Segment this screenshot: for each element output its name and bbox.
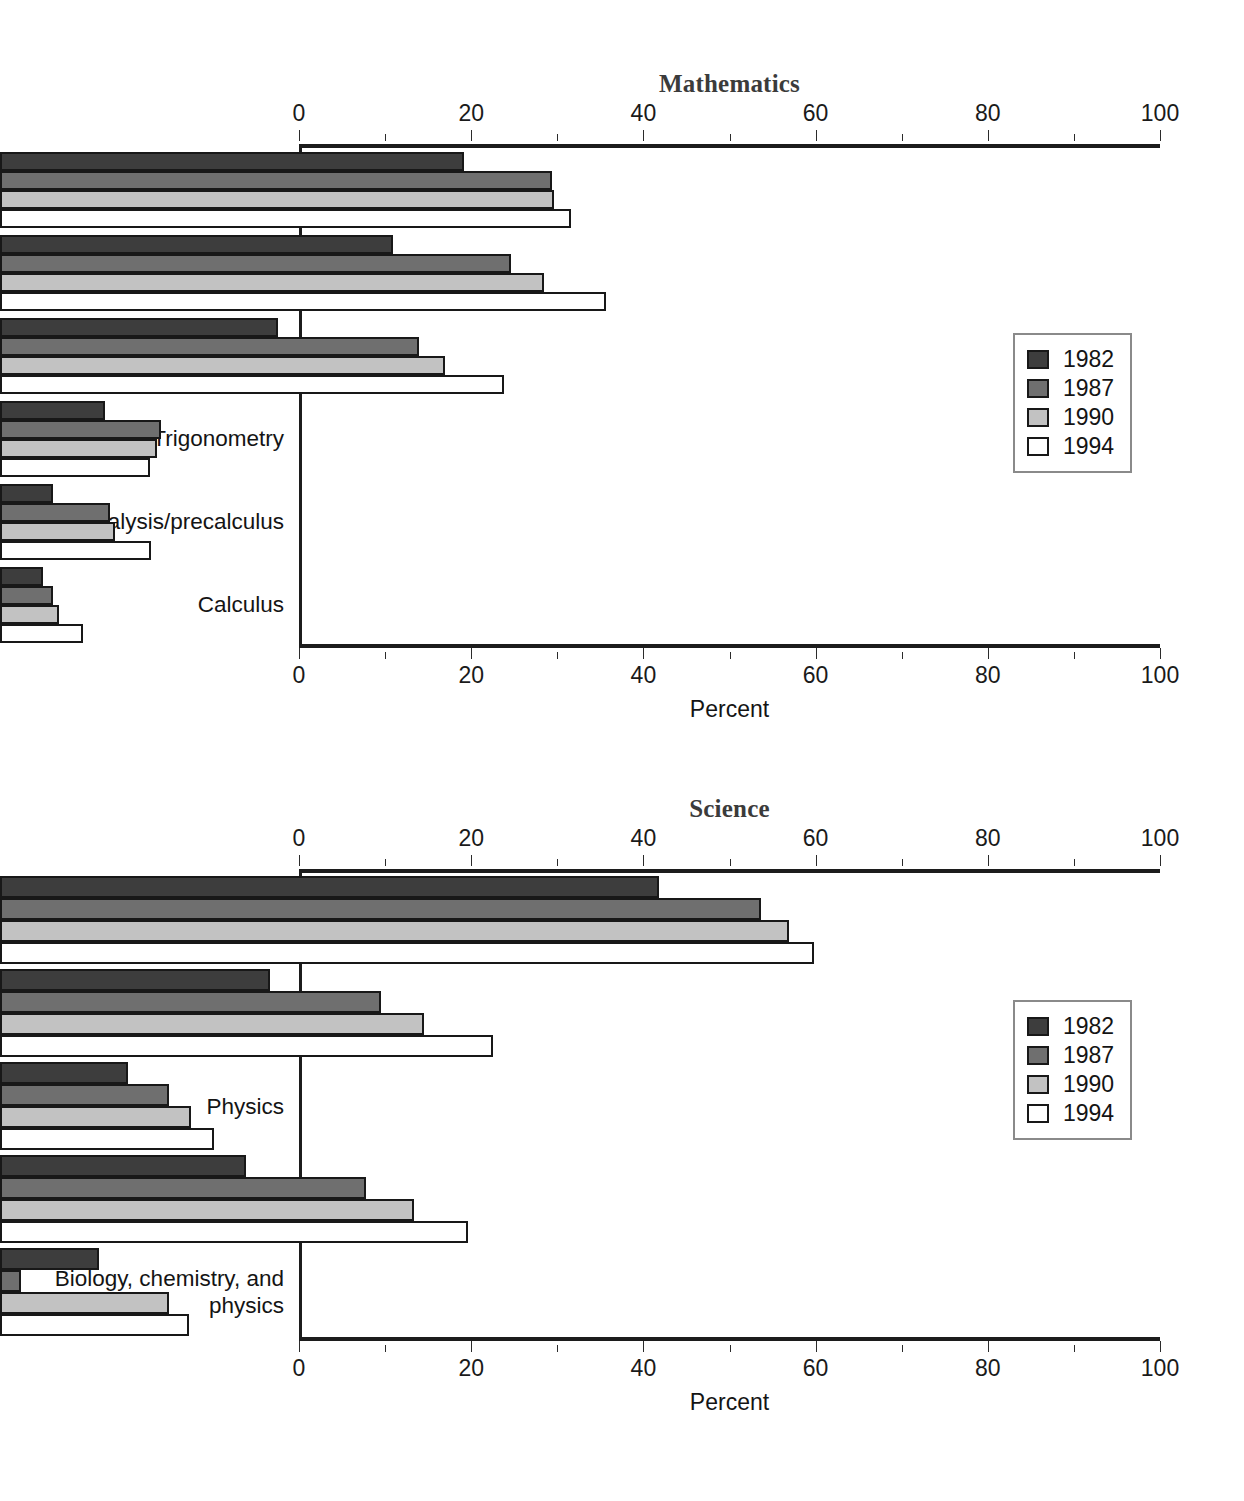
bottom-axis-tick-labels: 020406080100 [299, 1355, 1160, 1383]
axis-tick-minor [902, 1345, 903, 1352]
legend-label: 1982 [1063, 1015, 1114, 1038]
bar-1994 [0, 458, 150, 477]
axis-tick-label: 40 [631, 825, 657, 852]
bar-1990 [0, 1106, 191, 1128]
bar-1987 [0, 171, 552, 190]
legend-item-1982[interactable]: 1982 [1027, 345, 1114, 374]
bar-1987 [0, 254, 511, 273]
axis-tick-label: 40 [631, 100, 657, 127]
legend-swatch-icon [1027, 379, 1049, 398]
axis-tick-minor [730, 1345, 731, 1352]
bar-1987 [0, 420, 161, 439]
bar-1982 [0, 567, 43, 586]
axis-tick-minor [557, 859, 558, 866]
axis-tick-label: 100 [1141, 100, 1179, 127]
legend-label: 1994 [1063, 435, 1114, 458]
bar-1990 [0, 1013, 424, 1035]
top-axis-ticks [299, 130, 1160, 141]
axis-tick-major [299, 648, 300, 659]
legend-item-1990[interactable]: 1990 [1027, 1070, 1114, 1099]
bottom-axis-ticks [299, 648, 1160, 659]
legend-item-1994[interactable]: 1994 [1027, 1099, 1114, 1128]
bar-1987 [0, 337, 419, 356]
axis-tick-major [299, 130, 300, 141]
axis-tick-minor [902, 859, 903, 866]
axis-tick-major [1160, 648, 1161, 659]
legend-swatch-icon [1027, 1104, 1049, 1123]
chart-title-mathematics: Mathematics [299, 70, 1160, 98]
bar-1990 [0, 190, 554, 209]
bar-1982 [0, 876, 659, 898]
legend-item-1994[interactable]: 1994 [1027, 432, 1114, 461]
axis-tick-label: 60 [803, 662, 829, 689]
axis-tick-label: 60 [803, 1355, 829, 1382]
legend-swatch-icon [1027, 1075, 1049, 1094]
axis-tick-label: 20 [458, 662, 484, 689]
axis-tick-label: 20 [458, 100, 484, 127]
top-axis-ticks [299, 855, 1160, 866]
axis-tick-label: 0 [293, 1355, 306, 1382]
axis-tick-label: 80 [975, 825, 1001, 852]
bar-1987 [0, 1084, 169, 1106]
axis-tick-major [816, 855, 817, 866]
bar-1987 [0, 991, 381, 1013]
legend-swatch-icon [1027, 437, 1049, 456]
bar-1982 [0, 235, 393, 254]
bar-1982 [0, 401, 105, 420]
bar-1990 [0, 1292, 169, 1314]
axis-tick-minor [1074, 1345, 1075, 1352]
bar-1982 [0, 152, 464, 171]
axis-tick-major [471, 855, 472, 866]
bar-1982 [0, 1062, 128, 1084]
bar-1994 [0, 375, 504, 394]
bar-1994 [0, 292, 606, 311]
axis-tick-major [471, 1341, 472, 1352]
bar-1982 [0, 969, 270, 991]
legend-item-1982[interactable]: 1982 [1027, 1012, 1114, 1041]
axis-tick-label: 100 [1141, 1355, 1179, 1382]
axis-tick-major [988, 130, 989, 141]
legend-item-1990[interactable]: 1990 [1027, 403, 1114, 432]
axis-tick-minor [385, 134, 386, 141]
axis-tick-major [643, 855, 644, 866]
axis-tick-label: 60 [803, 825, 829, 852]
axis-tick-major [1160, 855, 1161, 866]
axis-tick-minor [557, 134, 558, 141]
bar-1982 [0, 484, 53, 503]
bottom-axis-ticks [299, 1341, 1160, 1352]
axis-tick-minor [902, 652, 903, 659]
axis-tick-minor [730, 652, 731, 659]
axis-tick-label: 80 [975, 100, 1001, 127]
axis-tick-major [988, 648, 989, 659]
legend-mathematics: 1982198719901994 [1013, 333, 1132, 473]
bar-1994 [0, 1314, 189, 1336]
chart-title-science: Science [299, 795, 1160, 823]
legend-swatch-icon [1027, 1017, 1049, 1036]
axis-tick-minor [385, 652, 386, 659]
axis-tick-label: 80 [975, 1355, 1001, 1382]
legend-item-1987[interactable]: 1987 [1027, 374, 1114, 403]
bar-1994 [0, 1035, 493, 1057]
axis-tick-minor [557, 1345, 558, 1352]
axis-tick-major [471, 130, 472, 141]
axis-tick-major [643, 130, 644, 141]
bar-1990 [0, 920, 789, 942]
legend-science: 1982198719901994 [1013, 1000, 1132, 1140]
legend-item-1987[interactable]: 1987 [1027, 1041, 1114, 1070]
axis-tick-major [643, 648, 644, 659]
bar-1990 [0, 1199, 414, 1221]
axis-tick-label: 80 [975, 662, 1001, 689]
bar-1990 [0, 439, 157, 458]
bar-1987 [0, 898, 761, 920]
legend-swatch-icon [1027, 408, 1049, 427]
chart-mathematics: Mathematics 020406080100 Algebra IGeomet… [0, 0, 1244, 740]
bar-1990 [0, 522, 115, 541]
axis-tick-major [988, 855, 989, 866]
axis-tick-minor [385, 1345, 386, 1352]
axis-tick-major [299, 855, 300, 866]
axis-tick-label: 20 [458, 1355, 484, 1382]
axis-tick-label: 0 [293, 100, 306, 127]
legend-label: 1990 [1063, 1073, 1114, 1096]
axis-tick-label: 0 [293, 662, 306, 689]
axis-tick-minor [730, 134, 731, 141]
